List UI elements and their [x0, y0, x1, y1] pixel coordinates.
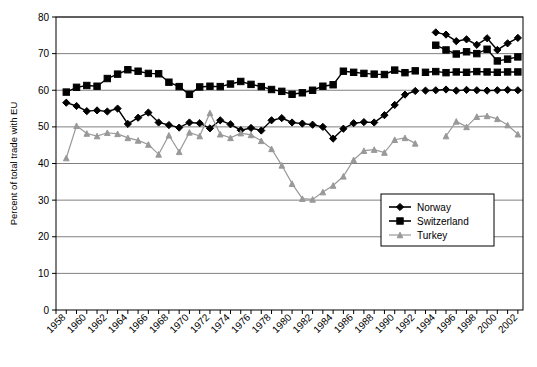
data-point-square: [258, 83, 264, 89]
data-point-square: [361, 70, 367, 76]
data-point-square: [166, 79, 172, 85]
data-point-square: [94, 83, 100, 89]
y-tick-label: 10: [38, 268, 50, 279]
legend: NorwaySwitzerlandTurkey: [381, 194, 494, 246]
x-tick-label: 1986: [332, 311, 356, 335]
data-point-square: [186, 91, 192, 97]
y-tick-label: 0: [43, 305, 49, 316]
data-point-square: [238, 78, 244, 84]
data-point-square: [145, 70, 151, 76]
data-point-square: [412, 68, 418, 74]
x-tick-label: 1976: [229, 311, 253, 335]
data-point-square: [453, 69, 459, 75]
data-point-square: [484, 46, 490, 52]
data-point-square: [63, 89, 69, 95]
data-point-square: [515, 69, 521, 75]
x-tick-label: 1970: [167, 311, 191, 335]
data-point-square: [392, 67, 398, 73]
x-tick-label: 1980: [270, 311, 294, 335]
data-point-square: [433, 68, 439, 74]
data-point-square: [217, 83, 223, 89]
y-tick-label: 30: [38, 195, 50, 206]
data-point-square: [340, 68, 346, 74]
x-tick-label: 2000: [475, 311, 499, 335]
x-tick-label: 1978: [249, 311, 273, 335]
legend-label-norway: Norway: [417, 202, 451, 213]
data-point-square: [279, 88, 285, 94]
data-point-square: [330, 82, 336, 88]
data-point-square: [515, 54, 521, 60]
data-point-square: [248, 81, 254, 87]
data-point-square: [484, 69, 490, 75]
y-tick-label: 60: [38, 85, 50, 96]
data-point-square: [504, 69, 510, 75]
data-point-square: [474, 68, 480, 74]
x-tick-label: 1972: [188, 311, 212, 335]
data-point-square: [135, 68, 141, 74]
y-tick-label: 20: [38, 231, 50, 242]
data-point-square: [289, 91, 295, 97]
data-point-square: [104, 75, 110, 81]
x-tick-label: 1998: [455, 311, 479, 335]
data-point-square: [114, 71, 120, 77]
x-tick-label: 1962: [85, 311, 109, 335]
data-point-square: [176, 83, 182, 89]
x-tick-label: 1988: [352, 311, 376, 335]
data-point-square: [504, 56, 510, 62]
data-point-square: [125, 67, 131, 73]
y-tick-label: 40: [38, 158, 50, 169]
data-point-square: [299, 90, 305, 96]
x-tick-label: 1994: [414, 311, 438, 335]
legend-label-switzerland: Switzerland: [417, 216, 469, 227]
data-point-square: [463, 69, 469, 75]
data-point-square: [494, 69, 500, 75]
data-point-square: [84, 82, 90, 88]
data-point-square: [381, 71, 387, 77]
data-point-square: [207, 83, 213, 89]
data-point-square: [155, 71, 161, 77]
data-point-square: [268, 86, 274, 92]
line-chart: 0102030405060708019581960196219641966196…: [0, 0, 537, 367]
data-point-square: [196, 84, 202, 90]
legend-label-turkey: Turkey: [417, 230, 447, 241]
data-point-square: [443, 69, 449, 75]
y-tick-label: 70: [38, 48, 50, 59]
data-point-square: [453, 51, 459, 57]
y-tick-label: 80: [38, 12, 50, 23]
x-tick-label: 1974: [208, 311, 232, 335]
data-point-square: [371, 71, 377, 77]
y-tick-label: 50: [38, 121, 50, 132]
x-tick-label: 2002: [496, 311, 520, 335]
x-tick-label: 1968: [147, 311, 171, 335]
data-point-square: [397, 218, 403, 224]
data-point-square: [320, 83, 326, 89]
x-tick-label: 1982: [290, 311, 314, 335]
data-point-square: [402, 69, 408, 75]
x-tick-label: 1990: [373, 311, 397, 335]
data-point-square: [422, 69, 428, 75]
data-point-square: [443, 47, 449, 53]
x-tick-label: 1996: [434, 311, 458, 335]
data-point-square: [309, 87, 315, 93]
data-point-square: [433, 42, 439, 48]
data-point-square: [494, 58, 500, 64]
data-point-square: [474, 50, 480, 56]
data-point-square: [227, 81, 233, 87]
x-tick-label: 1984: [311, 311, 335, 335]
x-tick-label: 1964: [106, 311, 130, 335]
data-point-square: [73, 84, 79, 90]
x-tick-label: 1960: [65, 311, 89, 335]
chart-container: 0102030405060708019581960196219641966196…: [0, 0, 537, 367]
x-tick-label: 1966: [126, 311, 150, 335]
data-point-square: [350, 69, 356, 75]
y-axis-title: Percent of total trade with EU: [8, 102, 19, 226]
data-point-square: [463, 49, 469, 55]
x-tick-label: 1992: [393, 311, 417, 335]
